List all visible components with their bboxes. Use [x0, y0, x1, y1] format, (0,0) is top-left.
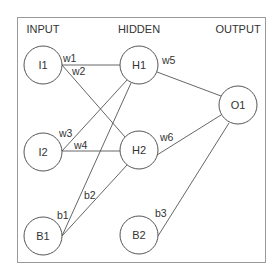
layer-header-input: INPUT [27, 23, 60, 35]
edge-label-b1: b1 [57, 209, 69, 221]
edge-label-b3: b3 [155, 207, 167, 219]
svg-text:H1: H1 [132, 59, 146, 71]
svg-text:I2: I2 [38, 146, 47, 158]
edge-b1 [62, 83, 131, 236]
svg-text:B2: B2 [132, 229, 145, 241]
edge-label-w1: w1 [62, 52, 77, 64]
layer-header-hidden: HIDDEN [118, 23, 160, 35]
edge-label-w4: w4 [73, 139, 88, 151]
edge-label-w2: w2 [71, 65, 86, 77]
edge-label-b2: b2 [84, 189, 96, 201]
edge-w5 [157, 72, 221, 96]
svg-text:I1: I1 [38, 59, 47, 71]
edge-w3 [62, 80, 127, 151]
node-b1: B1 [24, 217, 62, 255]
layer-header-output: OUTPUT [215, 23, 261, 35]
node-i1: I1 [24, 46, 62, 84]
edge-label-w3: w3 [58, 127, 73, 139]
edge-label-w5: w5 [161, 54, 176, 66]
edge-label-w6: w6 [159, 131, 174, 143]
node-o1: O1 [219, 86, 257, 124]
neural-network-diagram: INPUT HIDDEN OUTPUT w1 w2 w3 w4 w5 w6 b1… [0, 0, 280, 276]
node-h2: H2 [120, 131, 158, 169]
svg-text:B1: B1 [36, 230, 49, 242]
svg-text:H2: H2 [132, 144, 146, 156]
svg-text:O1: O1 [231, 99, 246, 111]
node-i2: I2 [24, 133, 62, 171]
node-h1: H1 [120, 46, 158, 84]
node-b2: B2 [120, 216, 158, 254]
